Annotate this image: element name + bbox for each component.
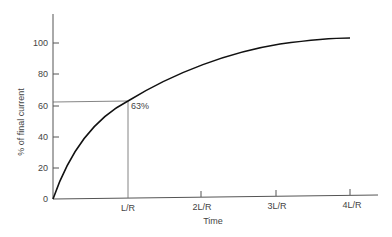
y-tick-label: 20 xyxy=(38,163,48,173)
y-tick-label: 80 xyxy=(38,69,48,79)
y-tick-labels: 100 80 60 40 20 0 xyxy=(33,38,48,204)
x-tick-label: L/R xyxy=(121,203,136,213)
y-ticks xyxy=(53,43,59,168)
x-tick-label: 2L/R xyxy=(192,202,212,212)
x-tick-label: 4L/R xyxy=(342,200,362,210)
y-tick-label: 40 xyxy=(38,132,48,142)
y-tick-label: 100 xyxy=(33,38,48,48)
reference-lines xyxy=(53,101,128,198)
y-tick-label: 0 xyxy=(43,194,48,204)
y-tick-label: 60 xyxy=(38,101,48,111)
annotation-63-percent: 63% xyxy=(131,101,149,111)
x-axis-title: Time xyxy=(203,216,223,226)
current-curve xyxy=(53,38,350,199)
y-axis-title: % of final current xyxy=(16,88,26,156)
x-tick-labels: L/R 2L/R 3L/R 4L/R xyxy=(121,200,362,213)
h-reference-line xyxy=(53,101,128,102)
rl-current-rise-chart: 100 80 60 40 20 0 L/R 2L/R 3L/R 4L/R 63%… xyxy=(0,0,392,237)
x-tick-label: 3L/R xyxy=(267,201,287,211)
x-axis xyxy=(53,195,378,199)
